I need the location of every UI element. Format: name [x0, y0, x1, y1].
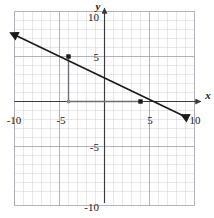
- y-axis-title: y: [94, 0, 101, 12]
- x-axis-title: x: [204, 89, 211, 101]
- coordinate-plane-graph: -10 -5 5 10 10 5 -5 -10 y x: [0, 0, 214, 218]
- xtick-pos-5: 5: [147, 114, 153, 126]
- ytick-neg-5: -5: [90, 141, 100, 153]
- graph-svg: -10 -5 5 10 10 5 -5 -10 y x: [0, 0, 214, 218]
- corner-point-marker: [67, 100, 71, 104]
- xtick-neg-5: -5: [56, 114, 66, 126]
- point-marker-b: [138, 99, 142, 103]
- chart-background: [0, 0, 214, 218]
- xtick-neg-10: -10: [7, 114, 22, 126]
- ytick-neg-10: -10: [84, 201, 99, 213]
- point-marker-a: [66, 54, 70, 58]
- ytick-pos-5: 5: [94, 51, 100, 63]
- xtick-pos-10: 10: [190, 114, 202, 126]
- ytick-pos-10: 10: [88, 11, 100, 23]
